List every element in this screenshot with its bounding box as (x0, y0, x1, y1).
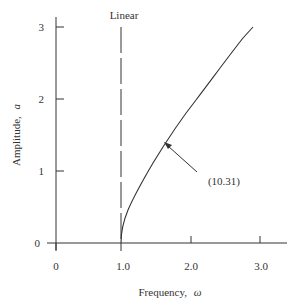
y-ticks (56, 27, 64, 171)
y-tick-labels: 3 2 1 0 (35, 21, 45, 249)
nonlinear-curve (121, 27, 253, 243)
x-tick-2: 2.0 (184, 260, 198, 272)
x-tick-0: 0 (53, 260, 59, 272)
equation-annotation-arrow (164, 142, 197, 172)
y-tick-1: 1 (39, 165, 45, 177)
y-tick-3: 3 (39, 21, 45, 33)
x-axis-label: Frequency, ω (139, 286, 202, 298)
y-tick-0: 0 (35, 237, 41, 249)
x-tick-3: 3.0 (254, 260, 268, 272)
x-tick-1: 1.0 (116, 260, 130, 272)
y-tick-2: 2 (39, 93, 45, 105)
y-axis-label: Amplitude, a (10, 103, 22, 166)
amplitude-frequency-chart: 3 2 1 0 0 1.0 2.0 3.0 Frequency, ω Ampli… (0, 0, 296, 308)
linear-label: Linear (110, 9, 139, 21)
x-tick-labels: 0 1.0 2.0 3.0 (53, 260, 268, 272)
equation-label: (10.31) (208, 175, 240, 188)
